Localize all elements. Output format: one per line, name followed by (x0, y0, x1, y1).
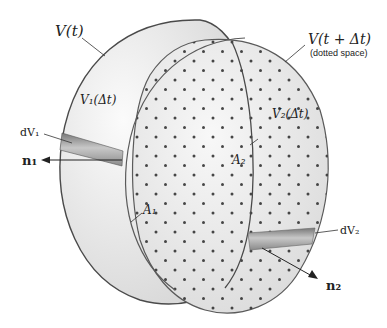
label-v2-dt: V₂(Δt) (272, 107, 309, 121)
control-volume-diagram: V(t) V(t + Δt) (dotted space) V₁(Δt) V₂(… (0, 0, 387, 328)
arrowhead-icon (41, 157, 50, 164)
label-v-t-dt: V(t + Δt) (308, 31, 371, 47)
label-v1-dt: V₁(Δt) (80, 93, 117, 107)
label-dv2: dV₂ (340, 224, 359, 237)
label-a2: A₂ (231, 153, 246, 167)
arrowhead-icon (308, 270, 318, 279)
label-v-t: V(t) (55, 22, 84, 40)
label-n2: n₂ (326, 278, 341, 293)
label-dv1: dV₁ (20, 126, 39, 139)
label-n1: n₁ (22, 153, 37, 168)
label-dotted-space: (dotted space) (310, 48, 368, 58)
leader-v-t (82, 38, 105, 56)
leader-v-t-dt (285, 45, 305, 62)
label-a1: A₁ (142, 203, 156, 217)
